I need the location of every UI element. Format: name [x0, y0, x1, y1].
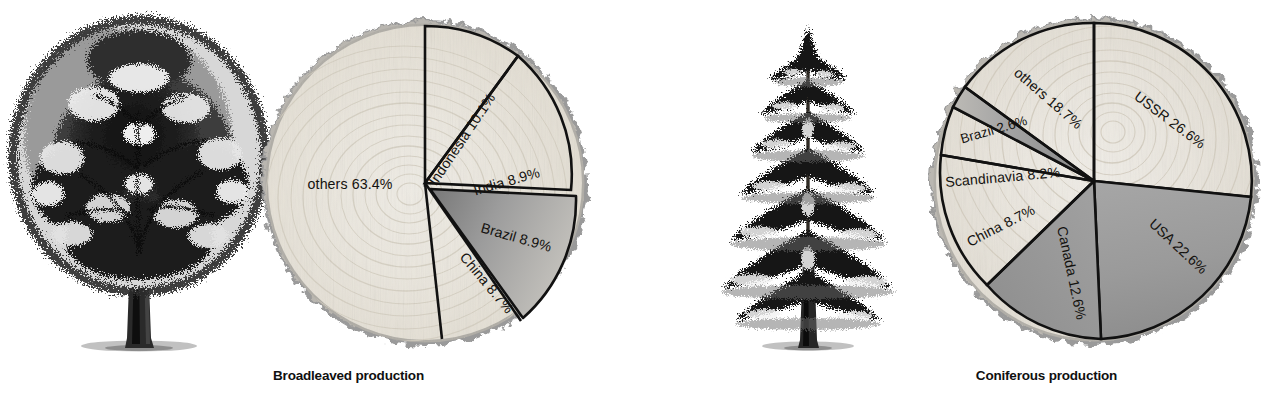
- figure-root: Indonesia 10.1% India 8.9% Brazil 8.9% C…: [0, 0, 1262, 394]
- caption-broadleaved: Broadleaved production: [0, 368, 631, 383]
- caption-coniferous: Coniferous production: [631, 368, 1262, 383]
- broadleaf-tree-illustration: [8, 8, 276, 358]
- slice-usa: [1094, 181, 1251, 339]
- pie-chart-broadleaved: Indonesia 10.1% India 8.9% Brazil 8.9% C…: [278, 14, 618, 358]
- pie-center-broadleaved: [424, 182, 426, 184]
- panel-broadleaved: Indonesia 10.1% India 8.9% Brazil 8.9% C…: [0, 0, 631, 394]
- conifer-tree-illustration: [693, 8, 923, 358]
- panel-coniferous: USSR 26.6% USA 22.6% Canada 12.6% China …: [631, 0, 1262, 394]
- label-others: others 63.4%: [308, 176, 393, 192]
- pie-center-coniferous: [1093, 180, 1095, 182]
- pie-chart-coniferous: USSR 26.6% USA 22.6% Canada 12.6% China …: [917, 14, 1257, 358]
